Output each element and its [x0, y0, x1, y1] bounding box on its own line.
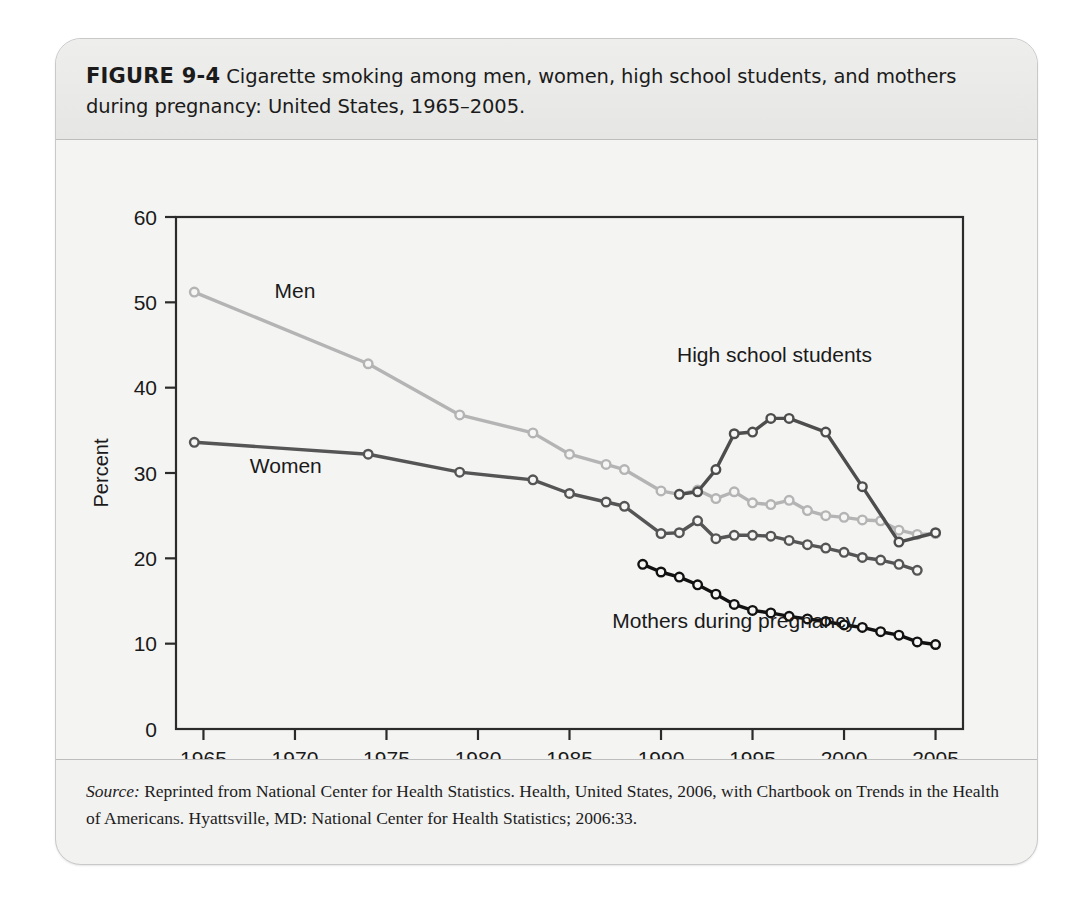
data-point-marker: [657, 487, 666, 496]
data-point-marker: [730, 487, 739, 496]
series-line: [679, 418, 935, 542]
data-point-marker: [767, 532, 776, 541]
figure-caption: FIGURE 9-4 Cigarette smoking among men, …: [86, 61, 1007, 122]
data-point-marker: [657, 529, 666, 538]
data-point-marker: [620, 502, 629, 511]
data-point-marker: [767, 414, 776, 423]
series-line: [643, 564, 936, 644]
y-axis-tick-label: 20: [134, 547, 157, 570]
series-label-men: Men: [275, 279, 316, 302]
series-label-high-school-students: High school students: [677, 343, 872, 366]
source-label: Source:: [86, 781, 140, 801]
data-point-marker: [693, 487, 702, 496]
series-label-women: Women: [250, 454, 322, 477]
series-label-mothers-during-pregnancy: Mothers during pregnancy: [612, 609, 856, 632]
figure-card: FIGURE 9-4 Cigarette smoking among men, …: [55, 38, 1038, 865]
data-point-marker: [821, 544, 830, 553]
data-point-marker: [840, 548, 849, 557]
line-chart: 0102030405060196519701975198019851990199…: [56, 140, 1039, 759]
y-axis-tick-label: 0: [145, 718, 157, 741]
data-point-marker: [895, 560, 904, 569]
data-point-marker: [785, 536, 794, 545]
x-axis-tick-label: 1985: [546, 747, 593, 759]
data-point-marker: [529, 476, 538, 485]
data-point-marker: [858, 623, 867, 632]
y-axis-tick-label: 30: [134, 462, 157, 485]
figure-source: Source: Reprinted from National Center f…: [56, 759, 1037, 864]
data-point-marker: [657, 568, 666, 577]
data-point-marker: [730, 429, 739, 438]
data-point-marker: [858, 553, 867, 562]
data-point-marker: [913, 566, 922, 575]
data-point-marker: [712, 590, 721, 599]
series-mothers-during-pregnancy: [638, 560, 939, 649]
y-axis-tick-label: 60: [134, 206, 157, 229]
data-point-marker: [364, 359, 373, 368]
data-point-marker: [876, 627, 885, 636]
data-point-marker: [675, 573, 684, 582]
data-point-marker: [602, 498, 611, 507]
data-point-marker: [895, 538, 904, 547]
data-point-marker: [858, 516, 867, 525]
data-point-marker: [821, 428, 830, 437]
data-point-marker: [748, 499, 757, 508]
data-point-marker: [693, 580, 702, 589]
y-axis-tick-label: 40: [134, 376, 157, 399]
data-point-marker: [620, 465, 629, 474]
data-point-marker: [730, 531, 739, 540]
data-point-marker: [675, 528, 684, 537]
data-point-marker: [785, 414, 794, 423]
figure-header: FIGURE 9-4 Cigarette smoking among men, …: [56, 39, 1037, 140]
data-point-marker: [602, 460, 611, 469]
source-paragraph: Source: Reprinted from National Center f…: [86, 778, 1007, 832]
data-point-marker: [803, 506, 812, 515]
data-point-marker: [931, 640, 940, 649]
x-axis-tick-label: 1970: [272, 747, 319, 759]
data-point-marker: [767, 500, 776, 509]
x-axis-tick-label: 1990: [638, 747, 685, 759]
data-point-marker: [748, 531, 757, 540]
data-point-marker: [712, 534, 721, 543]
data-point-marker: [858, 482, 867, 491]
data-point-marker: [675, 490, 684, 499]
data-point-marker: [931, 528, 940, 537]
data-point-marker: [364, 450, 373, 459]
data-point-marker: [565, 489, 574, 498]
data-point-marker: [529, 429, 538, 438]
data-point-marker: [693, 516, 702, 525]
source-citation: Reprinted from National Center for Healt…: [86, 781, 999, 828]
data-point-marker: [455, 468, 464, 477]
series-men: [190, 288, 940, 539]
data-point-marker: [803, 540, 812, 549]
x-axis-tick-label: 1995: [729, 747, 776, 759]
y-axis-tick-label: 10: [134, 632, 157, 655]
x-axis-tick-label: 2005: [912, 747, 959, 759]
data-point-marker: [730, 600, 739, 609]
x-axis-tick-label: 1965: [180, 747, 227, 759]
x-axis-tick-label: 1975: [363, 747, 410, 759]
data-point-marker: [895, 631, 904, 640]
data-point-marker: [748, 428, 757, 437]
data-point-marker: [913, 638, 922, 647]
data-point-marker: [638, 560, 647, 569]
x-axis-tick-label: 2000: [821, 747, 868, 759]
data-point-marker: [821, 511, 830, 520]
data-point-marker: [785, 496, 794, 505]
data-point-marker: [190, 288, 199, 297]
data-point-marker: [840, 513, 849, 522]
data-point-marker: [876, 556, 885, 565]
data-point-marker: [455, 411, 464, 420]
data-point-marker: [712, 465, 721, 474]
y-axis-title: Percent: [90, 438, 112, 507]
data-point-marker: [565, 450, 574, 459]
data-point-marker: [712, 494, 721, 503]
figure-number: FIGURE 9-4: [86, 64, 220, 88]
data-point-marker: [190, 438, 199, 447]
x-axis-tick-label: 1980: [455, 747, 502, 759]
y-axis-tick-label: 50: [134, 291, 157, 314]
series-line: [194, 292, 935, 534]
data-point-marker: [895, 526, 904, 535]
chart-plot-area: 0102030405060196519701975198019851990199…: [56, 140, 1037, 759]
